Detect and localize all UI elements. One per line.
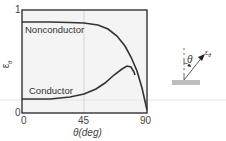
theta-label: θ bbox=[187, 54, 192, 65]
surface-icon bbox=[172, 80, 200, 85]
x-tick-0: 0 bbox=[21, 116, 27, 126]
x-tick-90: 90 bbox=[140, 116, 151, 126]
x-axis-label-text: θ(deg) bbox=[73, 127, 102, 138]
y-axis-label-text: ε bbox=[0, 64, 11, 68]
x-axis-label: θ(deg) bbox=[73, 128, 102, 138]
x-tick-45: 45 bbox=[78, 116, 89, 126]
y-axis-label: εθ bbox=[0, 61, 13, 69]
emissivity-label: εθ bbox=[205, 49, 211, 58]
arrowhead-icon bbox=[198, 54, 205, 61]
nonconductor-label: Nonconductor bbox=[25, 25, 84, 35]
y-tick-1: 1 bbox=[15, 5, 21, 15]
y-axis-label-sub: θ bbox=[7, 61, 13, 64]
emissivity-plot bbox=[0, 0, 226, 141]
emissivity-sub: θ bbox=[208, 52, 211, 58]
y-tick-0: 0 bbox=[15, 108, 21, 118]
conductor-label: Conductor bbox=[29, 86, 73, 96]
